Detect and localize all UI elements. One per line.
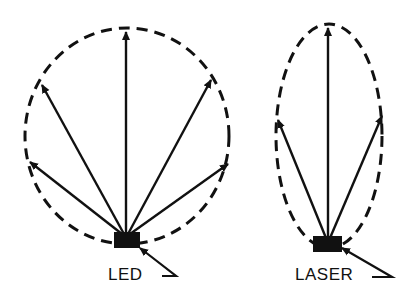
led-ray-right <box>130 164 228 234</box>
laser-label: LASER <box>295 265 353 285</box>
led-source-chip <box>114 232 140 248</box>
led-panel <box>25 28 229 276</box>
led-ray-upper-right <box>128 80 211 234</box>
led-pointer-arrow <box>140 248 176 276</box>
led-rays <box>30 32 228 234</box>
laser-source-chip <box>313 236 342 252</box>
laser-ray-right <box>330 116 382 238</box>
laser-panel <box>276 24 392 277</box>
led-ray-left <box>30 162 122 234</box>
diagram-canvas <box>0 0 417 298</box>
led-ray-upper-left <box>42 85 124 234</box>
led-label: LED <box>108 265 143 285</box>
laser-ray-left <box>278 120 326 238</box>
